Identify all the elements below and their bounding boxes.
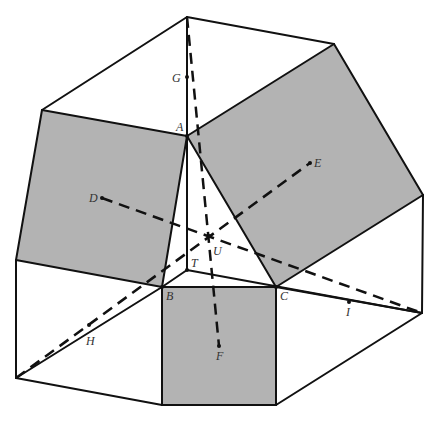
solid-edge — [162, 270, 187, 287]
point-label-e: E — [313, 156, 322, 170]
point-d-dot — [100, 196, 104, 200]
point-label-g: G — [172, 71, 181, 85]
point-c-dot — [274, 285, 278, 289]
point-label-d: D — [88, 191, 98, 205]
point-label-i: I — [345, 305, 351, 319]
point-label-h: H — [85, 334, 96, 348]
solid-edge — [42, 17, 187, 110]
point-a-dot — [185, 134, 189, 138]
solid-edge — [16, 287, 162, 378]
solid-edge — [187, 17, 334, 44]
solid-edge — [16, 378, 162, 405]
solid-edge — [422, 195, 423, 313]
point-b-dot — [160, 285, 164, 289]
point-i-dot — [347, 300, 351, 304]
right-square-face — [187, 44, 423, 287]
geometry-diagram: GADEUTBCIHF — [0, 0, 438, 422]
point-t-dot — [185, 268, 189, 272]
point-label-a: A — [175, 120, 184, 134]
solid-edge — [276, 313, 422, 405]
point-f-dot — [217, 344, 221, 348]
point-label-u: U — [213, 244, 223, 258]
point-e-dot — [308, 161, 312, 165]
point-label-c: C — [280, 289, 289, 303]
point-label-b: B — [166, 289, 174, 303]
point-label-f: F — [215, 349, 224, 363]
point-u-dot — [207, 234, 211, 238]
point-h-dot — [87, 323, 91, 327]
point-label-t: T — [191, 256, 199, 270]
point-g-dot — [185, 75, 189, 79]
